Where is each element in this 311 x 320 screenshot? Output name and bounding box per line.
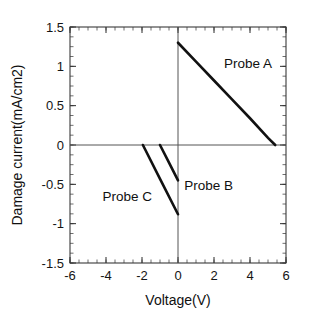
damage-current-vs-voltage-chart: -6-4-20246 -1.5-1-0.500.511.5 Probe APro…	[0, 0, 311, 320]
y-tick-label: -1.5	[42, 256, 64, 271]
x-tick-label: 4	[246, 268, 253, 283]
y-tick-label: -0.5	[42, 177, 64, 192]
chart-figure: -6-4-20246 -1.5-1-0.500.511.5 Probe APro…	[0, 0, 311, 320]
chart-background	[0, 0, 311, 320]
x-tick-label: 2	[210, 268, 217, 283]
y-tick-label: 1.5	[46, 20, 64, 35]
y-tick-label: -1	[52, 216, 64, 231]
x-tick-label: -6	[64, 268, 76, 283]
series-label-probe-b: Probe B	[184, 178, 233, 193]
y-tick-label: 0	[57, 138, 64, 153]
x-tick-label: 0	[174, 268, 181, 283]
x-tick-label: -4	[100, 268, 112, 283]
series-label-probe-a: Probe A	[224, 56, 272, 71]
x-tick-label: 6	[282, 268, 289, 283]
x-axis-title: Voltage(V)	[145, 292, 210, 308]
series-label-probe-c: Probe C	[102, 189, 152, 204]
x-tick-label: -2	[136, 268, 148, 283]
y-tick-label: 1	[57, 59, 64, 74]
y-tick-label: 0.5	[46, 98, 64, 113]
y-axis-title: Damage current(mA/cm2)	[9, 64, 25, 225]
